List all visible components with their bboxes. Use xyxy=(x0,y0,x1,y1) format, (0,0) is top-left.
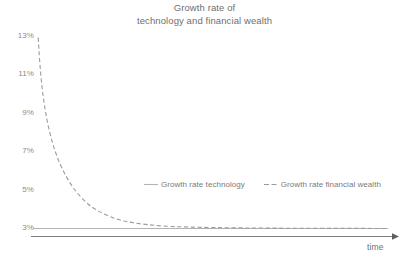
y-tick-label-5: 5% xyxy=(8,186,34,194)
y-tick-label-13: 13% xyxy=(8,32,34,40)
plot-svg xyxy=(0,0,409,262)
y-tick-label-3: 3% xyxy=(8,224,34,232)
x-axis-arrow-icon xyxy=(392,233,399,240)
legend-line-dashed-icon xyxy=(264,181,278,188)
series-line-financial-wealth xyxy=(38,38,388,229)
legend-item-financial-wealth[interactable]: Growth rate financial wealth xyxy=(264,180,381,189)
legend-label-financial-wealth: Growth rate financial wealth xyxy=(281,180,381,189)
plot-area xyxy=(0,0,409,262)
x-axis-label: time xyxy=(367,243,383,252)
y-tick-label-7: 7% xyxy=(8,147,34,155)
y-tick-label-11: 11% xyxy=(8,70,34,78)
chart-legend: Growth rate technology Growth rate finan… xyxy=(144,180,381,189)
y-tick-label-9: 9% xyxy=(8,109,34,117)
legend-item-technology[interactable]: Growth rate technology xyxy=(144,180,245,189)
chart-container: Growth rate of technology and financial … xyxy=(0,0,409,262)
legend-line-solid-icon xyxy=(144,181,158,188)
legend-label-technology: Growth rate technology xyxy=(161,180,245,189)
